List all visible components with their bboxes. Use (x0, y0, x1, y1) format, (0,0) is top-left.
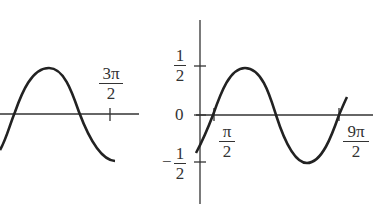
label-denominator: 2 (174, 164, 186, 182)
y-label-neg-sign: − (162, 152, 172, 172)
x-label-9pi-over-2: 9π 2 (343, 123, 369, 160)
label-denominator: 2 (99, 84, 123, 102)
label-numerator: 1 (174, 145, 186, 164)
label-numerator: 9π (343, 123, 369, 142)
y-label-half: 1 2 (174, 47, 186, 84)
label-numerator: π (219, 123, 235, 142)
right-graph (194, 20, 373, 204)
y-label-zero: 0 (175, 106, 184, 123)
left-x-label-3pi-over-2: 3π 2 (99, 65, 123, 102)
label-denominator: 2 (343, 142, 369, 160)
label-numerator: 1 (174, 47, 186, 66)
x-label-pi-over-2: π 2 (219, 123, 235, 160)
label-denominator: 2 (174, 66, 186, 84)
graphs-canvas (0, 0, 390, 204)
label-denominator: 2 (219, 142, 235, 160)
label-numerator: 3π (99, 65, 123, 84)
y-label-neg-half: 1 2 (174, 145, 186, 182)
